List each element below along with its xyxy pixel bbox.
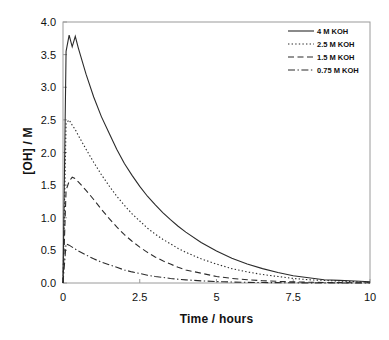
legend-label-0: 4 M KOH	[317, 27, 348, 36]
chart-figure: 0.00.51.01.52.02.53.03.54.002.557.510 4 …	[0, 0, 389, 340]
y-tick-label: 1.5	[41, 179, 56, 191]
x-tick-label: 0	[60, 291, 66, 303]
y-tick-label: 0.5	[41, 244, 56, 256]
x-tick-label: 7.5	[286, 291, 301, 303]
y-tick-label: 2.0	[41, 147, 56, 159]
legend-label-1: 2.5 M KOH	[317, 40, 355, 49]
y-tick-label: 3.0	[41, 81, 56, 93]
y-tick-label: 2.5	[41, 114, 56, 126]
y-axis-title: [OH] / M	[21, 71, 35, 231]
curve-series-1	[63, 120, 370, 283]
chart-legend: 4 M KOH2.5 M KOH1.5 M KOH0.75 M KOH	[288, 27, 359, 75]
x-axis-title: Time / hours	[63, 312, 370, 326]
y-tick-label: 1.0	[41, 212, 56, 224]
curve-series-3	[63, 244, 370, 283]
x-tick-label: 2.5	[132, 291, 147, 303]
y-tick-label: 0.0	[41, 277, 56, 289]
x-tick-label: 10	[364, 291, 376, 303]
line-chart-plot: 0.00.51.01.52.02.53.03.54.002.557.510 4 …	[0, 0, 389, 340]
y-tick-label: 4.0	[41, 16, 56, 28]
legend-label-2: 1.5 M KOH	[317, 53, 355, 62]
y-tick-label: 3.5	[41, 49, 56, 61]
x-tick-label: 5	[213, 291, 219, 303]
legend-label-3: 0.75 M KOH	[317, 66, 359, 75]
curve-series-2	[63, 177, 370, 283]
